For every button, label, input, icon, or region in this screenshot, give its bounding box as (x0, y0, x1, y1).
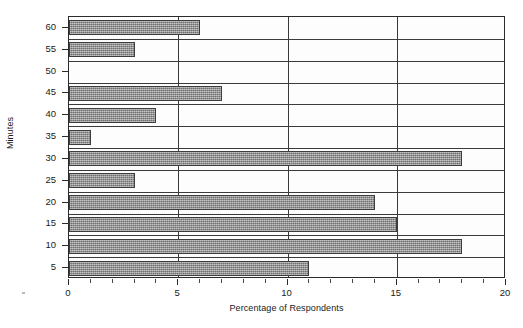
y-axis-tick (62, 202, 68, 203)
x-axis-major-tick (177, 279, 178, 285)
x-axis-minor-tick (112, 279, 113, 283)
bar-row (69, 126, 504, 148)
x-axis-minor-tick (461, 279, 462, 283)
y-axis-title: Minutes (5, 97, 15, 169)
x-axis-tick-label-20: 20 (493, 287, 517, 298)
bar-35-minutes[interactable] (69, 130, 91, 145)
x-axis-major-tick (505, 279, 506, 285)
x-axis-tick-label-10: 10 (275, 287, 299, 298)
y-axis-tick-label-60: 60 (30, 22, 56, 32)
bar-row (69, 83, 504, 105)
bar-40-minutes[interactable] (69, 108, 156, 123)
y-axis-tick-label-35: 35 (30, 131, 56, 141)
x-axis-minor-tick (199, 279, 200, 283)
y-axis-tick-label-45: 45 (30, 87, 56, 97)
bar-10-minutes[interactable] (69, 239, 462, 254)
bar-5-minutes[interactable] (69, 261, 309, 276)
y-axis-tick-label-50: 50 (30, 66, 56, 76)
x-axis-minor-tick (221, 279, 222, 283)
scan-artifact-speck (22, 292, 25, 294)
bar-25-minutes[interactable] (69, 173, 135, 188)
bar-60-minutes[interactable] (69, 20, 200, 35)
y-axis-tick-label-5: 5 (30, 262, 56, 272)
x-axis-minor-tick (134, 279, 135, 283)
y-axis-tick (62, 71, 68, 72)
x-axis-minor-tick (308, 279, 309, 283)
x-axis-minor-tick (90, 279, 91, 283)
bar-45-minutes[interactable] (69, 86, 222, 101)
x-axis-major-tick (68, 279, 69, 285)
x-axis-minor-tick (155, 279, 156, 283)
y-axis-tick-label-20: 20 (30, 197, 56, 207)
x-axis-minor-tick (352, 279, 353, 283)
y-axis-tick (62, 245, 68, 246)
plot-area (68, 16, 505, 278)
x-axis-major-tick (287, 279, 288, 285)
x-axis-major-tick (396, 279, 397, 285)
y-axis-tick (62, 180, 68, 181)
y-axis-tick (62, 267, 68, 268)
y-axis-tick (62, 49, 68, 50)
x-axis-tick-label-5: 5 (165, 287, 189, 298)
bar-55-minutes[interactable] (69, 42, 135, 57)
bar-20-minutes[interactable] (69, 195, 375, 210)
bar-row (69, 61, 504, 83)
bar-row (69, 257, 504, 279)
x-axis-minor-tick (483, 279, 484, 283)
bar-row (69, 17, 504, 39)
chart-title (120, 0, 420, 5)
y-axis-tick-label-15: 15 (30, 218, 56, 228)
bar-row (69, 192, 504, 214)
x-axis-minor-tick (330, 279, 331, 283)
y-axis-tick (62, 158, 68, 159)
x-axis-title: Percentage of Respondents (68, 303, 505, 313)
bar-chart-figure: Minutes 05101520 51015202530354045505560… (0, 0, 523, 328)
x-axis-tick-label-0: 0 (56, 287, 80, 298)
bar-row (69, 214, 504, 236)
x-axis-tick-label-15: 15 (384, 287, 408, 298)
bar-15-minutes[interactable] (69, 217, 397, 232)
bar-30-minutes[interactable] (69, 151, 462, 166)
x-axis-minor-tick (439, 279, 440, 283)
y-axis-tick-label-10: 10 (30, 240, 56, 250)
y-axis-tick-label-55: 55 (30, 44, 56, 54)
y-axis-tick (62, 223, 68, 224)
bar-row (69, 39, 504, 61)
bar-row (69, 170, 504, 192)
bar-row (69, 148, 504, 170)
x-axis-minor-tick (374, 279, 375, 283)
x-axis-minor-tick (418, 279, 419, 283)
x-axis-minor-tick (265, 279, 266, 283)
y-axis-tick-label-25: 25 (30, 175, 56, 185)
bar-row (69, 235, 504, 257)
y-axis-tick (62, 136, 68, 137)
x-axis-minor-tick (243, 279, 244, 283)
y-axis-tick-label-40: 40 (30, 109, 56, 119)
y-axis-tick (62, 27, 68, 28)
bar-row (69, 104, 504, 126)
y-axis-tick (62, 114, 68, 115)
y-axis-tick-label-30: 30 (30, 153, 56, 163)
y-axis-tick (62, 92, 68, 93)
